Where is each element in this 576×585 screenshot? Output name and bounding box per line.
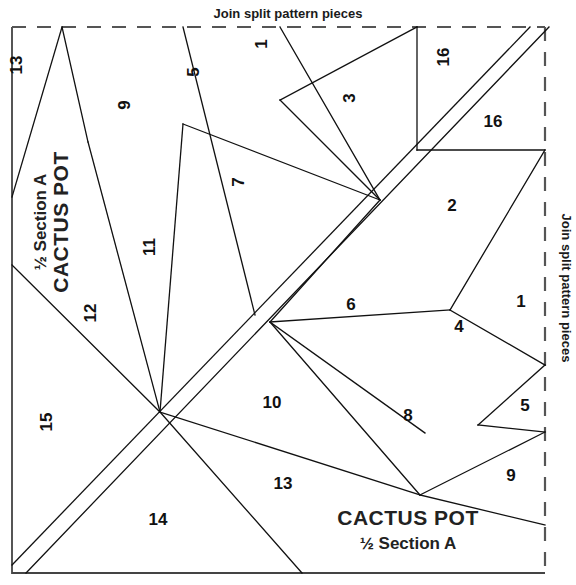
piece-number: 6 bbox=[346, 295, 355, 314]
piece-number: 15 bbox=[37, 413, 56, 432]
piece-number: 2 bbox=[447, 196, 456, 215]
piece-number: 9 bbox=[115, 100, 134, 109]
join-label-top: Join split pattern pieces bbox=[214, 6, 363, 21]
piece-number: 16 bbox=[484, 112, 503, 131]
piece-number: 8 bbox=[403, 406, 412, 425]
quilt-pattern-diagram: Join split pattern pieces Join split pat… bbox=[0, 0, 576, 585]
pattern-title: CACTUS POT bbox=[337, 506, 479, 529]
pattern-title-rotated: CACTUS POT bbox=[49, 151, 72, 293]
piece-number: 11 bbox=[140, 238, 159, 256]
piece-number: 3 bbox=[340, 93, 359, 102]
piece-number: 13 bbox=[274, 474, 293, 493]
pattern-subtitle: ½ Section A bbox=[360, 534, 457, 553]
join-label-right: Join split pattern pieces bbox=[559, 214, 574, 363]
pattern-page: Join split pattern pieces Join split pat… bbox=[0, 0, 576, 585]
piece-number: 7 bbox=[229, 177, 248, 186]
piece-number: 12 bbox=[81, 304, 100, 323]
pattern-subtitle-rotated: ½ Section A bbox=[31, 174, 50, 271]
piece-number: 1 bbox=[252, 39, 271, 48]
piece-number: 10 bbox=[263, 393, 282, 412]
piece-number: 4 bbox=[454, 317, 464, 336]
page-background bbox=[0, 0, 576, 585]
piece-number: 5 bbox=[184, 67, 203, 76]
piece-number: 16 bbox=[434, 48, 453, 67]
piece-number: 13 bbox=[7, 56, 26, 75]
piece-number: 14 bbox=[149, 510, 168, 529]
piece-number: 1 bbox=[516, 292, 525, 311]
piece-number: 5 bbox=[520, 396, 529, 415]
piece-number: 9 bbox=[506, 466, 515, 485]
